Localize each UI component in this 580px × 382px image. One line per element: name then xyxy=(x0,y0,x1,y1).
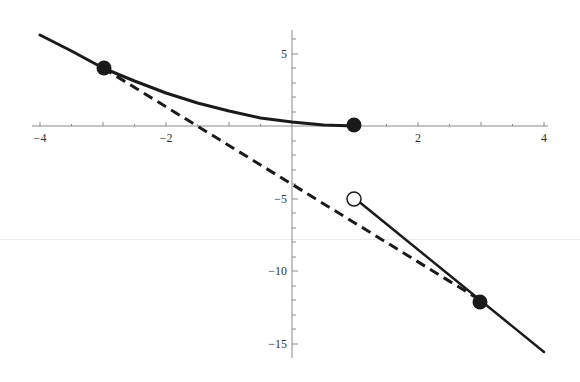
y-tick-label: −10 xyxy=(268,264,287,278)
chart: −4 −2 2 4 5 −5 −10 −15 xyxy=(0,0,580,382)
x-tick-label: 4 xyxy=(541,131,547,145)
y-tick-label: −5 xyxy=(274,192,287,206)
series-right-line xyxy=(360,203,544,353)
open-point-1-neg5 xyxy=(347,192,361,206)
filled-point-neg3-4 xyxy=(97,61,112,76)
x-tick-label: −2 xyxy=(160,131,173,145)
y-tick-label: 5 xyxy=(281,47,287,61)
x-tick-label: 2 xyxy=(415,131,421,145)
y-tick-labels: 5 −5 −10 −15 xyxy=(268,47,287,351)
y-axis xyxy=(292,30,298,358)
filled-point-1-0 xyxy=(347,118,362,133)
series-left-parabola-curve xyxy=(40,35,355,126)
filled-point-3-neg12 xyxy=(473,295,488,310)
y-tick-label: −15 xyxy=(268,337,287,351)
series-left-parabola xyxy=(40,35,355,126)
x-tick-label: −4 xyxy=(34,131,47,145)
y-axis-ticks xyxy=(292,39,298,344)
x-tick-labels: −4 −2 2 4 xyxy=(34,131,547,145)
